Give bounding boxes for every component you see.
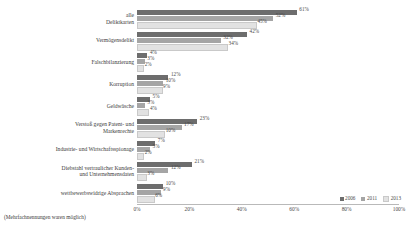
bar-track: 3% xyxy=(137,59,399,64)
bar-track: 12% xyxy=(137,75,399,80)
category-label: Geldwäsche xyxy=(3,103,137,109)
bar-value-label: 9% xyxy=(163,84,170,89)
bar-2013 xyxy=(137,196,155,203)
bar-group: 12%10%9% xyxy=(137,75,399,93)
bar-2006 xyxy=(137,75,168,80)
bar-value-label: 45% xyxy=(257,19,267,24)
bar-2011 xyxy=(137,59,145,64)
bar-track: 61% xyxy=(137,10,399,15)
bar-track: 10% xyxy=(137,81,399,86)
bar-group: 61%52%45% xyxy=(137,10,399,28)
bar-value-label: 9% xyxy=(163,187,170,192)
bar-value-label: 34% xyxy=(229,41,239,46)
x-tick-label: 0% xyxy=(133,206,140,212)
legend-item-2013[interactable]: 2013 xyxy=(383,196,401,202)
category-label: Diebstahl vertraulicher Kunden- und Unte… xyxy=(3,165,137,178)
bar-track: 52% xyxy=(137,16,399,21)
bar-2013 xyxy=(137,153,144,160)
bar-2011 xyxy=(137,38,221,43)
bar-track: 3% xyxy=(137,174,399,179)
category-label: wettbewerbswidrige Absprachen xyxy=(3,190,137,196)
bar-value-label: 5% xyxy=(153,144,160,149)
bar-2013 xyxy=(137,22,257,29)
bar-2011 xyxy=(137,103,145,108)
legend-swatch-icon xyxy=(340,197,344,201)
x-axis-line xyxy=(137,204,399,205)
bar-value-label: 17% xyxy=(184,122,194,127)
legend-item-2011[interactable]: 2011 xyxy=(361,196,377,201)
x-tick-label: 100% xyxy=(393,206,406,212)
bar-track: 45% xyxy=(137,22,399,27)
category-label: Falschbilanzierung xyxy=(3,59,137,65)
bar-track: 2% xyxy=(137,153,399,158)
bar-track: 5% xyxy=(137,97,399,102)
bar-track: 42% xyxy=(137,32,399,37)
category-label: Vermögensdelikt xyxy=(3,37,137,43)
chart-footnote: (Mehrfachnennungen waren möglich) xyxy=(4,214,86,220)
bar-track: 2% xyxy=(137,65,399,70)
bar-track: 10% xyxy=(137,131,399,136)
category-label: Verstoß gegen Patent- und Markenrechte xyxy=(3,121,137,134)
plot-area: 61%52%45%42%32%34%4%3%2%12%10%9%5%3%4%23… xyxy=(137,8,399,204)
category-labels: alle DeliktkartenVermögensdeliktFalschbi… xyxy=(0,8,137,204)
bar-track: 7% xyxy=(137,141,399,146)
bar-value-label: 2% xyxy=(145,62,152,67)
bar-track: 9% xyxy=(137,190,399,195)
bar-value-label: 7% xyxy=(158,138,165,143)
bar-value-label: 4% xyxy=(150,106,157,111)
x-tick-label: 40% xyxy=(237,206,247,212)
bar-value-label: 61% xyxy=(299,7,309,12)
bar-2006 xyxy=(137,53,147,58)
bar-value-label: 21% xyxy=(195,159,205,164)
bar-track: 12% xyxy=(137,168,399,173)
bar-group: 21%12%3% xyxy=(137,162,399,180)
bar-track: 10% xyxy=(137,184,399,189)
legend-item-2006[interactable]: 2006 xyxy=(340,196,356,201)
bar-track: 3% xyxy=(137,103,399,108)
bar-group: 7%5%2% xyxy=(137,141,399,159)
x-tick-label: 20% xyxy=(184,206,194,212)
bar-value-label: 10% xyxy=(166,128,176,133)
bar-track: 17% xyxy=(137,125,399,130)
category-label: Industrie- und Wirtschaftsspionage xyxy=(3,146,137,152)
category-label: Korruption xyxy=(3,81,137,87)
bar-2011 xyxy=(137,81,163,86)
bar-value-label: 3% xyxy=(147,171,154,176)
legend-label: 2006 xyxy=(345,196,355,201)
bar-track: 5% xyxy=(137,147,399,152)
legend-swatch-icon xyxy=(361,197,365,201)
bar-2006 xyxy=(137,184,163,189)
bar-2011 xyxy=(137,16,273,21)
bar-value-label: 23% xyxy=(200,116,210,121)
bar-track: 23% xyxy=(137,119,399,124)
bar-2013 xyxy=(137,174,147,181)
bar-value-label: 12% xyxy=(171,165,181,170)
x-tick-label: 80% xyxy=(342,206,352,212)
legend-label: 2011 xyxy=(367,196,377,201)
bar-group: 42%32%34% xyxy=(137,32,399,50)
bar-track: 34% xyxy=(137,44,399,49)
chart-legend: 200620112013 xyxy=(340,196,401,202)
bar-value-label: 6% xyxy=(155,193,162,198)
x-tick-label: 60% xyxy=(289,206,299,212)
bar-track: 4% xyxy=(137,109,399,114)
bar-group: 23%17%10% xyxy=(137,119,399,137)
bar-value-label: 52% xyxy=(276,13,286,18)
bar-value-label: 2% xyxy=(145,150,152,155)
bar-chart: alle DeliktkartenVermögensdeliktFalschbi… xyxy=(0,0,409,233)
bar-track: 4% xyxy=(137,53,399,58)
bar-track: 9% xyxy=(137,87,399,92)
legend-label: 2013 xyxy=(391,196,401,201)
bar-2013 xyxy=(137,65,144,72)
category-label: alle Deliktkarten xyxy=(3,12,137,25)
bar-2006 xyxy=(137,10,297,15)
x-axis-ticks: 0%20%40%60%80%100% xyxy=(137,206,399,218)
bar-group: 5%3%4% xyxy=(137,97,399,115)
bar-2013 xyxy=(137,109,149,116)
bar-2006 xyxy=(137,162,192,167)
bar-value-label: 42% xyxy=(250,29,260,34)
legend-swatch-icon xyxy=(383,196,389,202)
bar-track: 32% xyxy=(137,38,399,43)
bar-group: 4%3%2% xyxy=(137,53,399,71)
